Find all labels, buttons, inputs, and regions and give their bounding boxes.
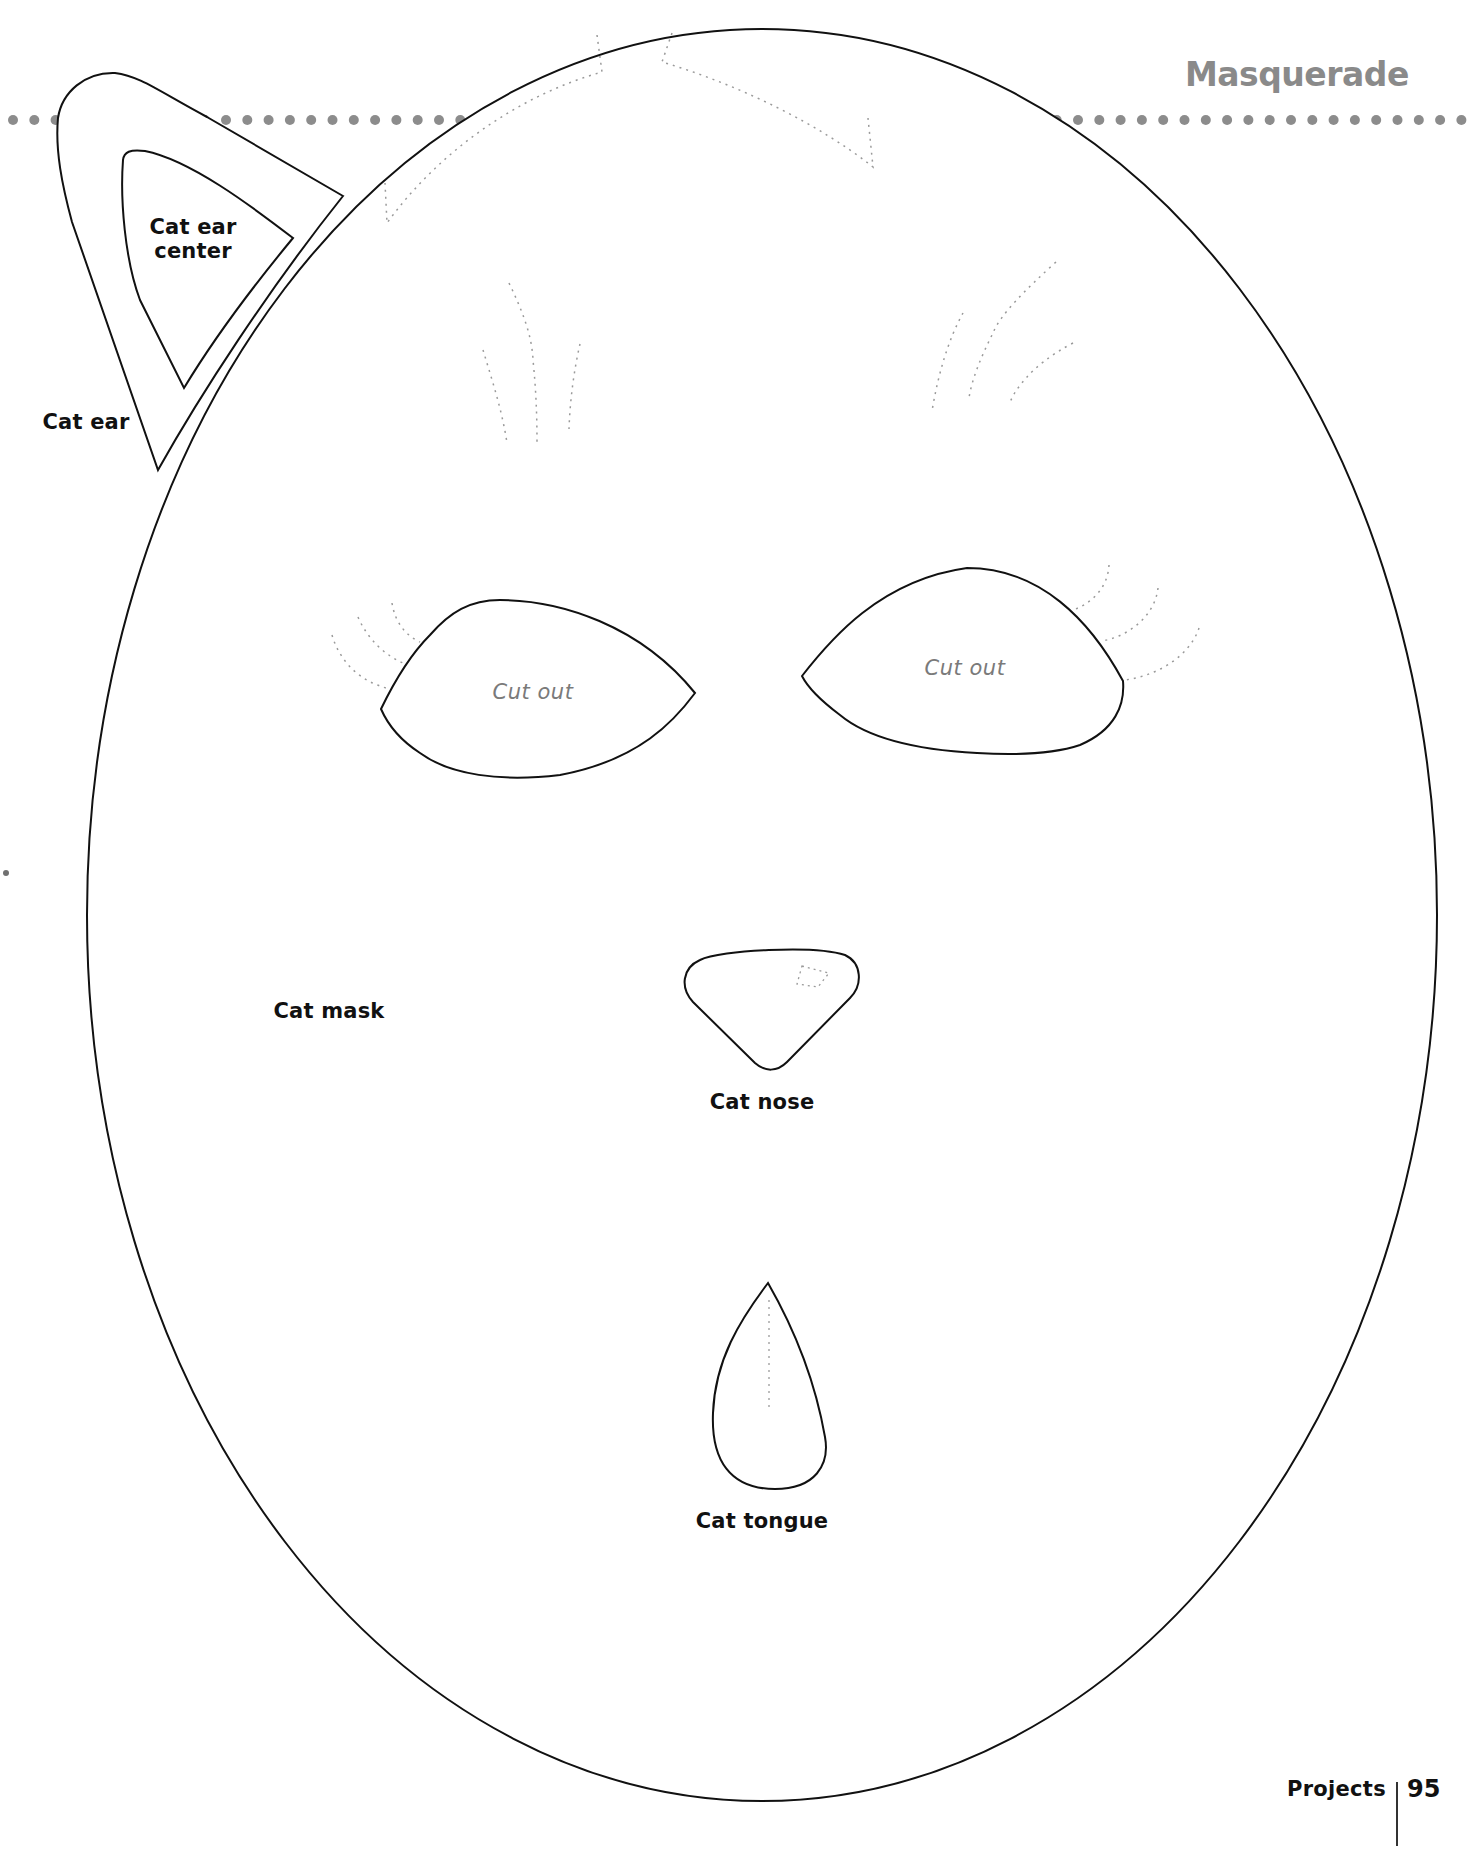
cat-tongue-label: Cat tongue — [696, 1509, 829, 1533]
footer-section-label: Projects — [1287, 1777, 1386, 1801]
cat-ear-label: Cat ear — [42, 410, 129, 434]
cat-nose-label: Cat nose — [710, 1090, 815, 1114]
cat-mask-outline — [87, 29, 1437, 1801]
footer-divider — [1396, 1782, 1398, 1846]
left-eye-cutout-label: Cut out — [493, 680, 574, 704]
chapter-title: Masquerade — [1185, 55, 1409, 94]
cat-ear-center-label-line2: center — [149, 239, 236, 263]
right-eye-cutout-label: Cut out — [925, 656, 1006, 680]
page-number: 95 — [1407, 1775, 1440, 1803]
cat-ear-center-label: Cat ear center — [149, 215, 236, 263]
cat-mask-label: Cat mask — [273, 999, 384, 1023]
scan-speck — [3, 870, 9, 876]
template-page: Masquerade Cat ear center Cat ear Cut ou… — [0, 0, 1483, 1849]
template-artwork — [0, 0, 1483, 1849]
cat-ear-center-label-line1: Cat ear — [149, 215, 236, 239]
